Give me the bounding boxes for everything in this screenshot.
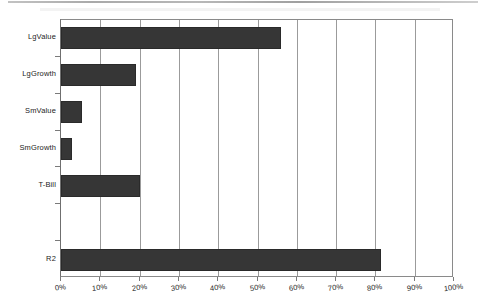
value-tick-0 [60, 277, 61, 281]
value-tick-70 [335, 277, 336, 281]
category-label-LgGrowth: LgGrowth [4, 69, 56, 78]
gridline-80 [375, 20, 376, 276]
bar-R2 [61, 249, 381, 271]
value-label-60%: 60% [288, 282, 304, 293]
value-tick-30 [178, 277, 179, 281]
category-label-LgValue: LgValue [4, 32, 56, 41]
value-label-40%: 40% [210, 282, 226, 293]
plot-area [60, 19, 453, 277]
value-tick-60 [296, 277, 297, 281]
horizontal-bar-chart: LgValueLgGrowthSmValueSmGrowthT-BillR2 0… [0, 0, 481, 308]
value-tick-10 [99, 277, 100, 281]
value-tick-40 [217, 277, 218, 281]
category-label-SmValue: SmValue [4, 106, 56, 115]
category-axis-labels: LgValueLgGrowthSmValueSmGrowthT-BillR2 [0, 0, 56, 308]
gridline-90 [415, 20, 416, 276]
gridline-40 [218, 20, 219, 276]
bar-LgGrowth [61, 64, 136, 86]
bar-SmValue [61, 101, 82, 123]
value-tick-50 [257, 277, 258, 281]
bar-SmGrowth [61, 138, 72, 160]
value-tick-80 [374, 277, 375, 281]
value-tick-20 [139, 277, 140, 281]
category-label-T-Bill: T-Bill [4, 180, 56, 189]
value-label-30%: 30% [170, 282, 186, 293]
gridline-30 [179, 20, 180, 276]
value-label-100%: 100% [443, 282, 464, 293]
value-label-90%: 90% [406, 282, 422, 293]
value-label-70%: 70% [327, 282, 343, 293]
value-label-80%: 80% [367, 282, 383, 293]
gridline-60 [297, 20, 298, 276]
value-label-0%: 0% [55, 282, 67, 292]
value-label-10%: 10% [92, 282, 108, 293]
value-tick-100 [453, 277, 454, 281]
gridline-10 [100, 20, 101, 276]
value-label-50%: 50% [249, 282, 265, 293]
gridline-20 [140, 20, 141, 276]
bar-LgValue [61, 27, 281, 49]
gridline-70 [336, 20, 337, 276]
value-label-20%: 20% [131, 282, 147, 293]
gridline-50 [258, 20, 259, 276]
category-label-SmGrowth: SmGrowth [4, 143, 56, 152]
category-label-R2: R2 [4, 254, 56, 263]
value-tick-90 [414, 277, 415, 281]
bar-T-Bill [61, 175, 140, 197]
